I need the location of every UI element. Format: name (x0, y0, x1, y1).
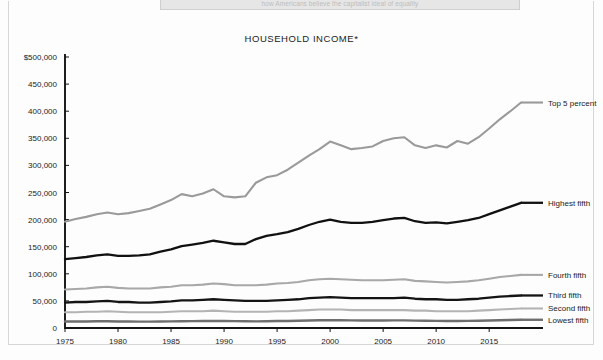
series-line (65, 275, 521, 290)
y-axis-tick-label: 50,000 (33, 297, 58, 306)
series-label: Second fifth (548, 304, 590, 313)
y-axis-tick-label: 300,000 (28, 161, 57, 170)
axis-spine (65, 54, 543, 328)
x-axis-tick-label: 1990 (215, 337, 233, 346)
series-label: Lowest fifth (548, 316, 588, 325)
y-axis-tick-label: 0 (53, 324, 58, 333)
x-axis-tick-label: 2000 (321, 337, 339, 346)
series-label: Fourth fifth (548, 271, 586, 280)
y-axis-tick-group: $500,000450,000400,000350,000300,000250,… (24, 53, 69, 333)
series-line (65, 103, 521, 222)
x-axis-tick-label: 1995 (268, 337, 286, 346)
x-axis-tick-label: 1980 (109, 337, 127, 346)
y-axis-tick-label: 100,000 (28, 270, 57, 279)
y-axis-tick-label: 450,000 (28, 80, 57, 89)
x-axis-tick-group: 197519801985199019952000200520102015 (56, 328, 499, 346)
series-line (65, 308, 521, 312)
y-axis-tick-label: 200,000 (28, 216, 57, 225)
x-axis-tick-label: 1985 (162, 337, 180, 346)
x-axis-tick-label: 2015 (480, 337, 498, 346)
y-axis-tick-label: 350,000 (28, 134, 57, 143)
figure-container: how Americans believe the capitalist ide… (0, 0, 603, 360)
series-label: Highest fifth (548, 199, 590, 208)
y-axis-tick-label: $500,000 (24, 53, 58, 62)
series-line (65, 320, 521, 322)
series-label: Third fifth (548, 291, 581, 300)
series-line (65, 295, 521, 302)
y-axis-tick-label: 250,000 (28, 189, 57, 198)
y-axis-tick-label: 400,000 (28, 107, 57, 116)
y-axis-tick-label: 150,000 (28, 243, 57, 252)
series-label: Top 5 percent (548, 99, 597, 108)
axis-lines (65, 54, 543, 328)
x-axis-tick-label: 2010 (427, 337, 445, 346)
series-labels-group: Top 5 percentHighest fifthFourth fifthTh… (548, 99, 597, 325)
x-axis-tick-label: 1975 (56, 337, 74, 346)
line-chart-plot: $500,000450,000400,000350,000300,000250,… (0, 0, 603, 360)
x-axis-tick-label: 2005 (374, 337, 392, 346)
series-lines-group (65, 103, 543, 322)
